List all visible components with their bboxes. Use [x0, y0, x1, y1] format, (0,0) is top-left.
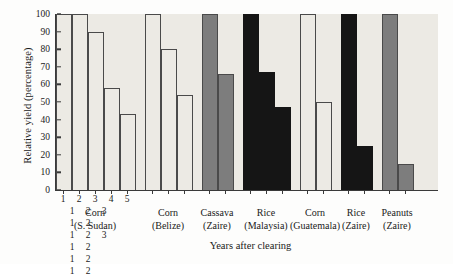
bar — [259, 72, 275, 190]
group-place-name: (Zaire) — [365, 219, 429, 232]
y-axis-tick-80: 80 — [14, 44, 56, 54]
x-tick-label: 1 — [55, 193, 71, 205]
x-labels-group-0: 12345 — [55, 193, 437, 205]
bar — [275, 107, 291, 190]
group-caption-6: Peanuts(Zaire) — [365, 206, 429, 232]
y-axis-tick-70: 70 — [14, 62, 56, 72]
bar — [120, 114, 136, 190]
bar — [202, 14, 218, 190]
group-crop-name: Corn — [305, 207, 325, 218]
bar-group-rice-3 — [243, 14, 291, 190]
group-crop-name: Corn — [85, 207, 105, 218]
x-tick-label: 2 — [80, 253, 96, 265]
bar-group-cassava-2 — [202, 14, 234, 190]
y-axis-tick-40: 40 — [14, 115, 56, 125]
bar — [398, 164, 414, 190]
bar — [218, 74, 234, 190]
x-tick-label: 5 — [119, 193, 135, 205]
bar — [161, 49, 177, 190]
bar — [243, 14, 259, 190]
x-tick-label: 1 — [64, 253, 80, 265]
y-axis-tick-20: 20 — [14, 150, 56, 160]
x-axis-title: Years after clearing — [0, 240, 453, 251]
x-labels-group-5: 12 — [64, 253, 437, 265]
x-tick-label: 4 — [103, 193, 119, 205]
y-axis-tick-50: 50 — [14, 97, 56, 107]
bar-groups — [56, 14, 438, 190]
bar — [88, 32, 104, 190]
bar-group-corn-4 — [300, 14, 332, 190]
x-tick-label: 2 — [71, 193, 87, 205]
bar-group-corn-1 — [145, 14, 193, 190]
bar — [145, 14, 161, 190]
y-axis-tick-0: 0 — [14, 185, 56, 195]
bar — [316, 102, 332, 190]
bar-group-corn-0 — [56, 14, 136, 190]
x-tick-label: 1 — [64, 265, 80, 277]
plot-area: 0102030405060708090100 — [55, 14, 438, 191]
bar — [357, 146, 373, 190]
group-crop-name: Corn — [158, 207, 178, 218]
bar — [382, 14, 398, 190]
x-tick-label: 2 — [80, 265, 96, 277]
y-axis-tick-100: 100 — [14, 9, 56, 19]
bar — [341, 14, 357, 190]
group-crop-name: Rice — [347, 207, 365, 218]
bar — [104, 88, 120, 190]
bar-group-peanuts-6 — [382, 14, 414, 190]
y-axis-tick-60: 60 — [14, 79, 56, 89]
y-axis-tick-10: 10 — [14, 167, 56, 177]
y-axis-tick-30: 30 — [14, 132, 56, 142]
bar-group-rice-5 — [341, 14, 373, 190]
x-tick-label: 3 — [87, 193, 103, 205]
bar — [300, 14, 316, 190]
group-captions: Corn(S. Sudan)Corn(Belize)Cassava(Zaire)… — [55, 206, 437, 240]
x-axis-tick-labels: 1234512312123121212 — [55, 193, 437, 205]
x-labels-group-6: 12 — [64, 265, 437, 277]
bar — [72, 14, 88, 190]
group-crop-name: Peanuts — [381, 207, 412, 218]
bar — [177, 95, 193, 190]
group-crop-name: Rice — [257, 207, 275, 218]
x-axis-title-text: Years after clearing — [210, 240, 292, 251]
y-axis-tick-90: 90 — [14, 27, 56, 37]
